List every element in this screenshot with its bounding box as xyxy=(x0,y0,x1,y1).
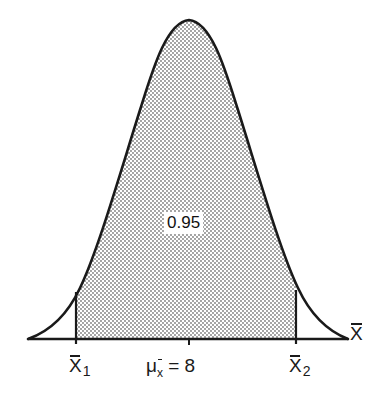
overbar xyxy=(158,359,162,360)
x1-subscript: 1 xyxy=(83,363,91,379)
mu-subscript: x xyxy=(157,356,163,375)
x2-label: X2 xyxy=(289,356,310,375)
x2-main-text: X xyxy=(289,355,302,376)
x2-subscript: 2 xyxy=(303,363,311,379)
x-axis-text: X xyxy=(350,323,363,344)
mu-symbol: μ xyxy=(146,355,157,376)
x1-main-text: X xyxy=(69,355,82,376)
overbar xyxy=(351,323,362,325)
mean-label: μx = 8 xyxy=(146,356,195,375)
overbar xyxy=(70,355,80,357)
overbar xyxy=(290,355,300,357)
probability-label: 0.95 xyxy=(164,212,203,234)
x-axis-label: X xyxy=(350,324,363,343)
x1-label: X1 xyxy=(69,356,90,375)
normal-curve-chart xyxy=(0,0,374,393)
mean-value-text: = 8 xyxy=(163,355,195,376)
